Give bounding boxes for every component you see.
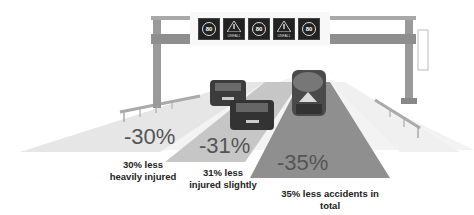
speed-limit-sign: 80 xyxy=(298,18,320,40)
tanker-truck xyxy=(292,70,326,116)
car-front xyxy=(230,100,274,130)
warning-sign: UNFALL xyxy=(273,18,295,40)
warning-triangle-icon xyxy=(227,21,241,32)
percent-injured-slightly: -31% xyxy=(199,133,250,159)
warning-triangle-icon xyxy=(277,21,291,32)
percent-heavily-injured: -30% xyxy=(124,124,175,150)
speed-limit-icon: 80 xyxy=(252,22,266,36)
speed-limit-sign: 80 xyxy=(248,18,270,40)
speed-limit-icon: 80 xyxy=(302,22,316,36)
speed-limit-sign: 80 xyxy=(198,18,220,40)
speed-limit-icon: 80 xyxy=(202,22,216,36)
caption-total-accidents: 35% less accidents in total xyxy=(245,188,415,212)
percent-total-accidents: -35% xyxy=(277,150,328,176)
warning-sign: UNFALL xyxy=(223,18,245,40)
